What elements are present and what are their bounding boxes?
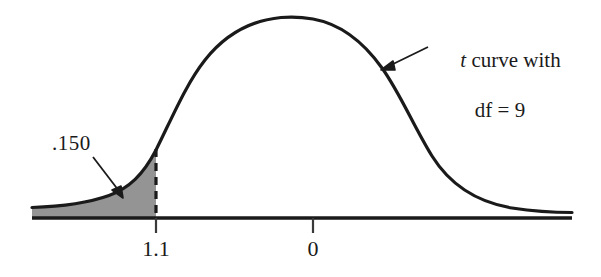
- curve-annotation-line-2: df = 9: [424, 98, 576, 122]
- x-tick-label-0: 0: [295, 236, 331, 261]
- area-label-arrow: [93, 157, 123, 198]
- curve-annotation-line-1-text: curve with: [466, 48, 560, 72]
- x-tick-label-1.1: 1.1: [134, 236, 178, 261]
- shaded-area-label: .150: [52, 131, 91, 155]
- curve-annotation: t curve with df = 9: [424, 24, 576, 171]
- t-curve-figure: .150 1.1 0 t curve with df = 9: [0, 0, 601, 277]
- curve-label-arrow: [381, 47, 428, 70]
- curve-annotation-line-1: t curve with: [460, 48, 560, 72]
